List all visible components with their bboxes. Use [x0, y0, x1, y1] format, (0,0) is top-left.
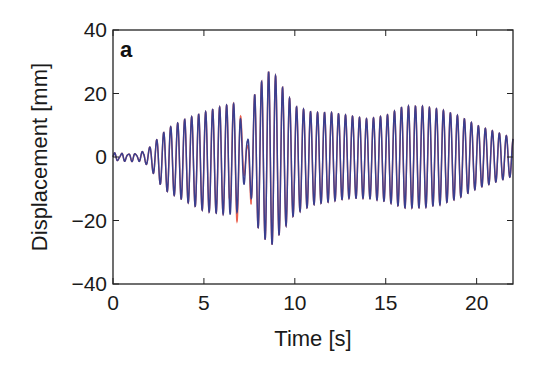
- series-measured-line: [113, 72, 513, 245]
- plot-series: [113, 72, 513, 245]
- y-tick-label: −40: [71, 272, 107, 295]
- y-tick-label: 20: [84, 82, 107, 105]
- panel-label: a: [120, 37, 133, 62]
- displacement-time-chart: 05101520 −40−2002040 a Time [s] Displace…: [0, 0, 546, 376]
- x-tick-label: 10: [283, 291, 306, 314]
- y-tick-label: 0: [95, 145, 107, 168]
- x-tick-label: 5: [198, 291, 210, 314]
- x-tick-label: 20: [465, 291, 488, 314]
- x-tick-label: 0: [107, 291, 119, 314]
- y-tick-label: −20: [71, 209, 107, 232]
- y-axis-label: Displacement [mm]: [27, 63, 52, 251]
- x-axis-label: Time [s]: [274, 326, 351, 351]
- y-tick-label: 40: [84, 18, 107, 41]
- x-tick-label: 15: [374, 291, 397, 314]
